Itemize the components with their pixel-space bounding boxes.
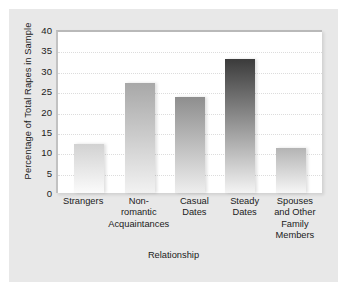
x-tick-label: SteadyDates [220, 196, 270, 242]
y-tick-label: 40 [30, 25, 52, 36]
x-tick-label-line: Casual [169, 196, 219, 207]
bar-slot [165, 32, 215, 193]
x-tick-label: Strangers [58, 196, 108, 242]
x-tick-label-line: Spouses [270, 196, 320, 207]
x-tick-label-line: Acquaintances [108, 219, 169, 230]
y-tick-label: 30 [30, 65, 52, 76]
bar-slot [215, 32, 265, 193]
x-tick-label-line: Dates [169, 207, 219, 218]
x-tick-label: Non-romanticAcquaintances [108, 196, 169, 242]
bar-slot [114, 32, 164, 193]
x-tick-label-line: Family [270, 219, 320, 230]
bar-chart-figure: Percentage of Total Rapes in Sample 4035… [0, 0, 347, 291]
plot-area [56, 30, 322, 193]
x-tick-label: Spousesand OtherFamilyMembers [270, 196, 320, 242]
x-tick-label: CasualDates [169, 196, 219, 242]
x-axis-title: Relationship [0, 250, 347, 260]
y-tick-label: 25 [30, 86, 52, 97]
bar [276, 148, 306, 193]
x-tick-label-line: romantic [108, 207, 169, 218]
y-axis-tick-labels: 4035302520151050 [28, 30, 52, 193]
y-tick-label: 20 [30, 106, 52, 117]
x-tick-label-line: Members [270, 230, 320, 241]
bar-slot [64, 32, 114, 193]
bar [175, 97, 205, 193]
bar-slot [266, 32, 316, 193]
y-tick-label: 10 [30, 147, 52, 158]
y-tick-label: 15 [30, 126, 52, 137]
bar [225, 59, 255, 193]
x-tick-label-line: Steady [220, 196, 270, 207]
x-tick-label-line: Dates [220, 207, 270, 218]
y-tick-label: 35 [30, 45, 52, 56]
x-tick-label-line: Non- [108, 196, 169, 207]
bar-series [58, 32, 322, 193]
bar [125, 83, 155, 193]
x-tick-label-line: and Other [270, 207, 320, 218]
y-tick-label: 5 [30, 167, 52, 178]
x-axis-tick-labels: StrangersNon-romanticAcquaintancesCasual… [56, 196, 322, 242]
bar [74, 144, 104, 193]
x-tick-label-line: Strangers [58, 196, 108, 207]
y-tick-label: 0 [30, 188, 52, 199]
